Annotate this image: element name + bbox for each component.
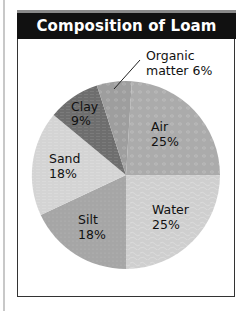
label-clay: Clay <box>71 99 99 114</box>
label-water-pct: 25% <box>152 217 180 232</box>
label-air: Air <box>151 119 169 134</box>
label-sand: Sand <box>49 151 80 166</box>
label-clay-pct: 9% <box>71 113 91 128</box>
pie-chart: Organic matter 6% Clay 9% Air 25% Sand 1… <box>0 0 246 311</box>
label-silt: Silt <box>78 212 98 227</box>
label-organic-line2: matter 6% <box>146 63 212 78</box>
label-silt-pct: 18% <box>78 227 106 242</box>
label-organic-line1: Organic <box>146 48 195 63</box>
label-sand-pct: 18% <box>49 166 77 181</box>
label-air-pct: 25% <box>151 134 179 149</box>
slice-air <box>126 81 220 175</box>
label-water: Water <box>152 202 190 217</box>
